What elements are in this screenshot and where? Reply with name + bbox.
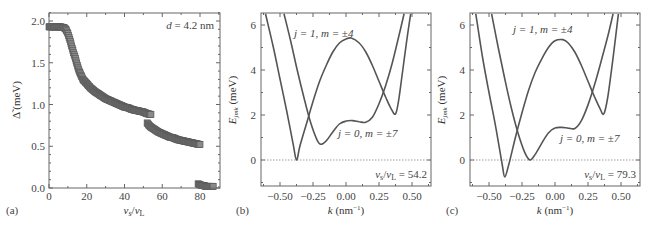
x-tick-label: 0.50: [611, 190, 631, 202]
panel-b-label-j0: j = 0, m = ±7: [336, 127, 398, 139]
panel-a-xlabel: vs/vL: [124, 204, 145, 218]
x-tick-label: 80: [195, 190, 207, 202]
panel-a: 0204060800.00.51.01.52.0 d = 4.2 nm (a) …: [6, 13, 220, 218]
x-tick-label: 40: [119, 190, 131, 202]
y-tick-label: 2: [460, 109, 466, 121]
panel-c-label-j0: j = 0, m = ±7: [558, 132, 620, 144]
y-tick-label: 1.5: [31, 57, 45, 69]
panel-c: −0.50−0.250.000.250.500246 j = 1, m = ±4…: [435, 13, 640, 217]
y-tick-label: 6: [460, 19, 466, 31]
panel-c-curves: [476, 14, 619, 177]
x-tick-label: 0.00: [545, 190, 565, 202]
panel-b-label-j1: j = 1, m = ±4: [292, 27, 354, 39]
panel-c-label-j1: j = 1, m = ±4: [511, 23, 573, 35]
panel-c-annotation: vs/vL = 79.3: [584, 168, 636, 182]
panel-a-ticks: [49, 13, 220, 188]
x-tick-label: −0.50: [267, 190, 293, 202]
x-tick-label: 0.25: [369, 190, 389, 202]
panel-a-tag: (a): [6, 204, 19, 217]
x-tick-label: 20: [81, 190, 93, 202]
x-tick-label: 60: [157, 190, 169, 202]
y-tick-label: 6: [251, 19, 257, 31]
y-tick-label: 0: [251, 154, 257, 166]
panel-b-ylabel: Ejmk (meV): [226, 76, 240, 126]
y-tick-label: 0: [460, 154, 466, 166]
y-tick-label: 4: [251, 64, 257, 76]
y-tick-label: 4: [460, 64, 466, 76]
data-marker: [197, 142, 203, 148]
x-tick-label: 0.00: [336, 190, 356, 202]
x-tick-label: −0.25: [509, 190, 535, 202]
panel-c-tag: (c): [446, 204, 459, 217]
x-tick-label: 0: [46, 190, 52, 202]
panel-b-tag: (b): [236, 204, 249, 217]
panel-a-annotation: d = 4.2 nm: [166, 19, 214, 31]
panel-a-frame: [49, 13, 220, 188]
figure: 0204060800.00.51.01.52.0 d = 4.2 nm (a) …: [0, 0, 657, 227]
x-tick-label: 0.25: [578, 190, 598, 202]
x-tick-label: −0.25: [300, 190, 326, 202]
y-tick-label: 0.5: [31, 140, 45, 152]
panel-a-ylabel: Δ̃ (meV): [10, 81, 23, 119]
curve-j1-m4: [476, 14, 619, 177]
data-marker: [148, 112, 154, 118]
panel-b-annotation: vs/vL = 54.2: [375, 168, 427, 182]
panel-c-xlabel: k (nm−1): [537, 204, 574, 217]
y-tick-label: 2: [251, 109, 257, 121]
panel-b-xlabel: k (nm−1): [328, 204, 365, 217]
y-tick-label: 1.0: [31, 99, 45, 111]
y-tick-label: 0.0: [31, 182, 45, 194]
panel-c-ylabel: Ejmk (meV): [435, 76, 449, 126]
y-tick-label: 2.0: [31, 15, 45, 27]
panel-b: −0.50−0.250.000.250.500246 j = 1, m = ±4…: [226, 13, 431, 217]
x-tick-label: −0.50: [476, 190, 502, 202]
x-tick-label: 0.50: [402, 190, 422, 202]
panel-a-data-markers: [46, 24, 216, 189]
